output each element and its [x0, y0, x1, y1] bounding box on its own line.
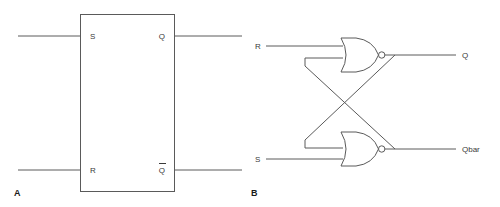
- panel-a-group: S Q R Q A: [14, 15, 242, 199]
- panel-b-group: R S Q Qbar B: [251, 38, 480, 198]
- nor-gate-bottom: [341, 132, 385, 166]
- nor-gate-bottom-body: [341, 132, 379, 166]
- sr-latch-figure: S Q R Q A R S Q Qbar: [0, 0, 500, 207]
- panel-label-b: B: [251, 188, 258, 198]
- nor-gate-top-body: [341, 38, 379, 72]
- nor-gate-top: [341, 38, 385, 72]
- output-label-q: Q: [462, 51, 468, 60]
- pin-label-qbar: Q: [159, 166, 165, 175]
- nor-gate-bottom-bubble: [379, 146, 385, 152]
- output-label-qbar: Qbar: [462, 145, 480, 154]
- nor-gate-top-bubble: [379, 52, 385, 58]
- input-label-s: S: [255, 155, 260, 164]
- pin-label-q: Q: [159, 32, 165, 41]
- input-label-r: R: [255, 42, 261, 51]
- pin-label-r: R: [90, 166, 96, 175]
- pin-label-qbar-group: Q: [159, 164, 166, 176]
- feedback-q-to-bottom-gate: [305, 55, 395, 148]
- pin-label-s: S: [90, 32, 95, 41]
- panel-label-a: A: [14, 188, 21, 198]
- latch-block-outline: [81, 15, 175, 192]
